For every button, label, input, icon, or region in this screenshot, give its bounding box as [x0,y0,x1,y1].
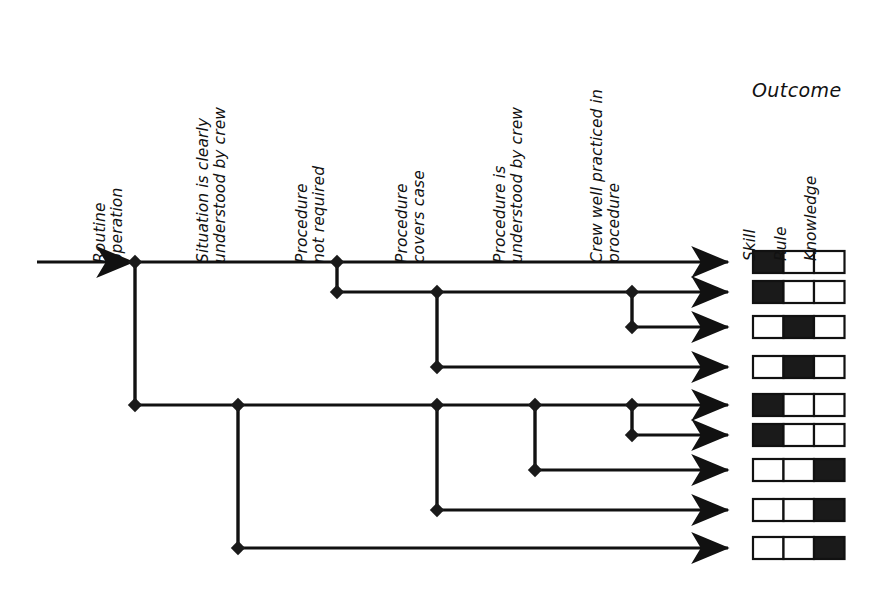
node-n-c6-r3[interactable] [625,320,639,334]
outcome-cell-knowledge-row-4[interactable] [814,356,845,378]
node-n-c3-r1[interactable] [330,255,344,269]
outcome-header-knowledge: Knowledge [802,176,820,261]
event-tree-diagram: RoutineoperationSituation is clearlyunde… [0,0,873,592]
column-header-line2: understood by crew [212,107,229,263]
outcome-cell-skill-row-7[interactable] [753,459,784,481]
node-n-c6-r5[interactable] [625,398,639,412]
node-n-c5-r5[interactable] [528,398,542,412]
column-header-procedure-understood: Procedure isunderstood by crew [492,107,526,263]
node-n-c2-r9[interactable] [231,541,245,555]
outcome-cell-rule-row-4[interactable] [784,356,815,378]
outcome-cell-knowledge-row-2[interactable] [814,281,845,303]
outcome-cell-knowledge-row-9[interactable] [814,537,845,559]
node-n-c1-r5[interactable] [128,398,142,412]
column-header-procedure-not-required: Procedurenot required [294,166,328,263]
column-header-situation-understood: Situation is clearlyunderstood by crew [195,107,229,263]
column-header-line1: Crew well practiced in [588,89,606,263]
outcome-row-5 [753,394,845,416]
outcome-cell-skill-row-9[interactable] [753,537,784,559]
node-n-c2-r5[interactable] [231,398,245,412]
outcome-row-1 [753,251,845,273]
outcome-row-9 [753,537,845,559]
outcome-cell-knowledge-row-5[interactable] [814,394,845,416]
outcome-row-4 [753,356,845,378]
outcome-boxes-group [753,251,845,559]
outcome-row-3 [753,316,845,338]
node-n-c5-r7[interactable] [528,463,542,477]
tree-canvas [0,0,873,592]
outcome-cell-knowledge-row-7[interactable] [814,459,845,481]
column-header-procedure-covers-case: Procedurecovers case [394,170,428,263]
node-n-c3-r2[interactable] [330,285,344,299]
outcome-cell-rule-row-9[interactable] [784,537,815,559]
outcome-cell-skill-row-8[interactable] [753,499,784,521]
node-n-c6-r2[interactable] [625,285,639,299]
outcome-cell-rule-row-5[interactable] [784,394,815,416]
column-header-line2: not required [311,166,328,263]
outcome-cell-rule-row-6[interactable] [784,424,815,446]
outcome-cell-rule-row-2[interactable] [784,281,815,303]
node-n-c4-r8[interactable] [430,503,444,517]
outcome-cell-knowledge-row-3[interactable] [814,316,845,338]
column-header-line2: operation [109,188,126,263]
outcome-cell-rule-row-3[interactable] [784,316,815,338]
column-header-line1: Situation is clearly [194,118,212,263]
outcome-cell-skill-row-6[interactable] [753,424,784,446]
outcome-cell-rule-row-8[interactable] [784,499,815,521]
outcome-cell-rule-row-7[interactable] [784,459,815,481]
outcome-cell-knowledge-row-6[interactable] [814,424,845,446]
outcome-row-2 [753,281,845,303]
node-n-c4-r5[interactable] [430,398,444,412]
column-header-line1: Procedure is [491,166,509,263]
column-header-routine-operation: Routineoperation [92,188,126,263]
node-root[interactable] [128,255,142,269]
column-header-line2: procedure [606,89,623,263]
column-header-line2: covers case [411,170,428,263]
node-n-c4-r4[interactable] [430,360,444,374]
node-n-c4-r2[interactable] [430,285,444,299]
outcome-title: Outcome [752,79,842,101]
outcome-row-8 [753,499,845,521]
column-header-crew-well-practiced: Crew well practiced inprocedure [589,89,623,263]
outcome-row-6 [753,424,845,446]
outcome-cell-skill-row-2[interactable] [753,281,784,303]
column-header-line1: Routine [91,202,109,263]
outcome-row-7 [753,459,845,481]
column-header-line1: Procedure [393,183,411,263]
outcome-cell-skill-row-4[interactable] [753,356,784,378]
node-n-c6-r6[interactable] [625,428,639,442]
outcome-cell-skill-row-3[interactable] [753,316,784,338]
outcome-cell-knowledge-row-8[interactable] [814,499,845,521]
outcome-header-rule: Rule [772,227,790,261]
outcome-cell-skill-row-5[interactable] [753,394,784,416]
outcome-header-skill: Skill [741,229,759,261]
column-header-line1: Procedure [293,183,311,263]
column-header-line2: understood by crew [509,107,526,263]
